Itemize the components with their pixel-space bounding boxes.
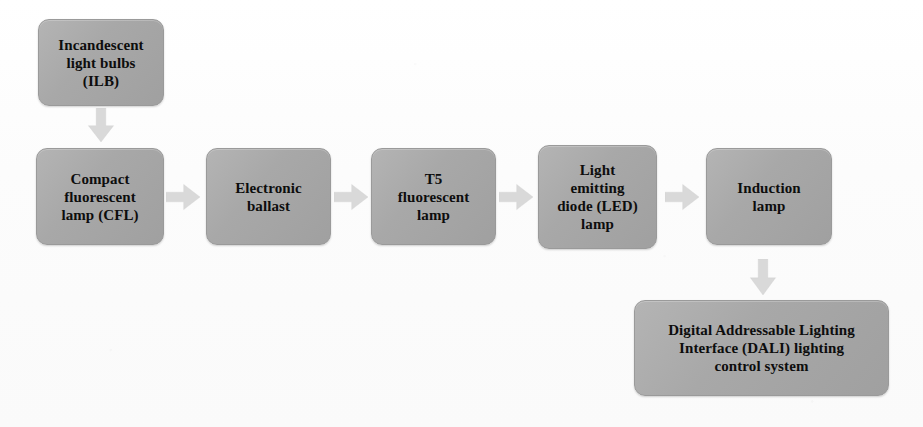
- flow-node-induction: Induction lamp: [706, 148, 832, 245]
- arrow-induction-to-dali: [748, 259, 778, 295]
- flow-node-led: Light emitting diode (LED) lamp: [538, 145, 657, 249]
- arrow-ilb-to-cfl: [86, 108, 116, 142]
- arrow-ballast-to-t5: [334, 182, 368, 212]
- arrow-led-to-induction: [665, 182, 699, 212]
- flow-node-label: T5 fluorescent lamp: [392, 170, 476, 224]
- flowchart-canvas: Incandescent light bulbs (ILB)Compact fl…: [0, 0, 923, 427]
- flow-node-label: Light emitting diode (LED) lamp: [551, 161, 644, 233]
- flow-node-label: Incandescent light bulbs (ILB): [52, 36, 149, 90]
- flow-node-label: Electronic ballast: [229, 179, 308, 215]
- flow-node-ballast: Electronic ballast: [206, 148, 331, 245]
- arrow-t5-to-led: [499, 182, 533, 212]
- arrow-cfl-to-ballast: [166, 182, 200, 212]
- flow-node-label: Compact fluorescent lamp (CFL): [55, 170, 144, 224]
- flow-node-label: Digital Addressable Lighting Interface (…: [662, 321, 861, 375]
- flow-node-t5: T5 fluorescent lamp: [371, 148, 496, 245]
- flow-node-label: Induction lamp: [731, 179, 806, 215]
- flow-node-cfl: Compact fluorescent lamp (CFL): [36, 148, 164, 245]
- flow-node-ilb: Incandescent light bulbs (ILB): [38, 19, 164, 106]
- flow-node-dali: Digital Addressable Lighting Interface (…: [634, 300, 889, 396]
